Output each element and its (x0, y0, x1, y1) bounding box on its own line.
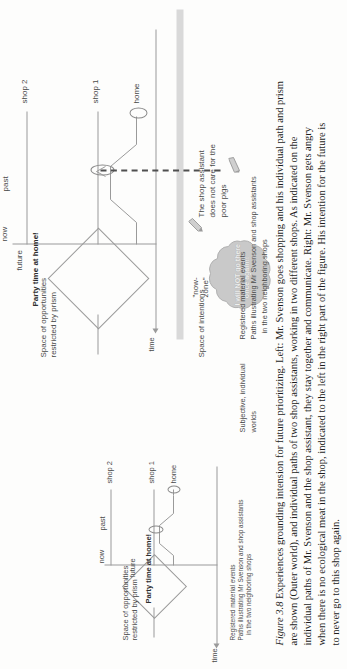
left-party-connector (153, 607, 154, 637)
right-time-axis-label: time (146, 337, 155, 351)
right-future-label: future (14, 250, 24, 270)
left-home-ellipse (167, 485, 180, 493)
left-shop2-assistant-path (110, 489, 111, 565)
caption-line-3: individual paths of Mr. Svenson and the … (301, 126, 312, 645)
caption-line-5: to never go to this shop again. (329, 519, 340, 645)
right-place-label-home: home (131, 83, 141, 103)
scanned-page: time Space of opportunities restricted b… (0, 0, 347, 669)
right-home-ellipse (129, 107, 147, 118)
caption-line-1: Experiences grounding intension for futu… (273, 81, 284, 599)
left-past-label: past (97, 516, 106, 530)
left-place-label-shop1: shop 1 (146, 460, 155, 483)
right-legend-subjective-worlds: Subjective, individual worlds (236, 363, 258, 432)
left-future-label: future (127, 558, 136, 577)
figure-caption: Figure 3.8 Experiences grounding intensi… (272, 20, 342, 645)
left-legend: Registered material events Paths illustr… (228, 499, 251, 640)
left-place-label-home: home (168, 464, 177, 483)
right-shop2-assistant-path (26, 111, 27, 244)
right-time-axis-arrowhead (152, 328, 158, 333)
space-of-intentions-label: Space of intentions (196, 289, 206, 357)
left-place-label-shop2: shop 2 (104, 460, 113, 483)
caption-line-4: when there is no ecological meat in the … (315, 122, 326, 645)
right-space-of-opportunities-label: Space of opportunities restricted by pri… (38, 277, 58, 357)
right-party-connector (97, 314, 98, 354)
right-place-label-shop2: shop 2 (19, 79, 29, 103)
caption-line-2: are shown (Outer world), and individual … (287, 136, 298, 645)
left-time-axis-arrowhead (213, 643, 219, 648)
right-legend-registered-material-events: Registered material events Paths illustr… (236, 176, 269, 339)
right-svenson-individual-path (80, 104, 150, 244)
right-place-label-shop1: shop 1 (90, 79, 100, 103)
right-now-label: now (0, 226, 9, 241)
left-time-axis-label: time (209, 648, 218, 662)
figure-3-8: time Space of opportunities restricted b… (0, 0, 347, 669)
left-now-label: now (96, 549, 105, 563)
left-time-axis (216, 466, 217, 644)
left-svenson-individual-path (140, 485, 188, 565)
figure-number: Figure 3.8 (273, 601, 284, 645)
left-bundle-ellipse-shop1 (148, 525, 163, 533)
right-past-label: past (0, 176, 10, 191)
dashed-line-arrowhead (96, 164, 108, 176)
right-party-time-label: Party time at home! (30, 232, 40, 306)
right-time-axis (155, 29, 156, 329)
now-zone-band (176, 9, 183, 339)
